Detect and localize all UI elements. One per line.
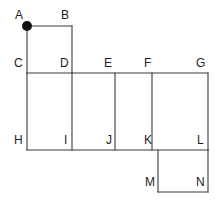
vertex-label-A: A bbox=[15, 9, 23, 21]
vertex-label-L: L bbox=[197, 134, 204, 146]
marked-vertex-group bbox=[22, 21, 32, 31]
vertex-label-C: C bbox=[14, 57, 23, 69]
vertex-label-I: I bbox=[64, 134, 67, 146]
net-diagram-figure: ABCDEFGHIJKLMN bbox=[0, 0, 217, 202]
net-diagram-canvas bbox=[0, 0, 217, 202]
vertex-label-D: D bbox=[60, 57, 69, 69]
vertex-label-N: N bbox=[196, 176, 205, 188]
vertex-label-E: E bbox=[104, 57, 112, 69]
vertex-label-K: K bbox=[144, 134, 152, 146]
net-faces-group bbox=[27, 26, 208, 192]
marked-vertex-dot-a bbox=[22, 21, 32, 31]
vertex-label-B: B bbox=[61, 9, 69, 21]
vertex-label-G: G bbox=[196, 57, 205, 69]
vertex-label-H: H bbox=[14, 134, 23, 146]
vertex-label-F: F bbox=[144, 57, 151, 69]
vertex-label-J: J bbox=[106, 134, 112, 146]
vertex-label-M: M bbox=[145, 176, 155, 188]
